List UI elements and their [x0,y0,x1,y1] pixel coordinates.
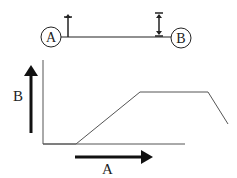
graph: B A [13,60,228,177]
y-axis-label: B [13,88,23,104]
diagram-canvas: A B B A [0,0,237,178]
up-arrow-icon [64,14,72,37]
node-b-label: B [176,31,185,46]
curve [43,92,228,144]
x-axis-label: A [102,161,113,177]
node-a-label: A [46,30,57,45]
double-arrow-icon [155,13,163,36]
beam-diagram: A B [41,13,191,48]
x-direction-arrow-icon [75,150,153,164]
y-direction-arrow-icon [24,65,38,133]
